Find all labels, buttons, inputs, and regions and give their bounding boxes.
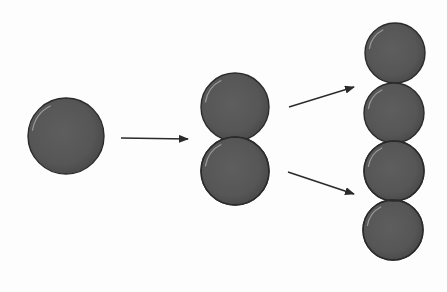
- stage-1: [28, 98, 104, 174]
- diagram-canvas: [0, 0, 447, 292]
- stage-2: [201, 73, 269, 205]
- arrow-icon: [121, 138, 188, 139]
- cell-body: [364, 83, 424, 143]
- cell: [201, 73, 269, 141]
- cell: [28, 98, 104, 174]
- cell-body: [201, 73, 269, 141]
- cell: [365, 23, 425, 83]
- cell-division-diagram: [0, 0, 447, 292]
- cell: [364, 83, 424, 143]
- stage-3: [363, 23, 425, 260]
- cell-body: [365, 23, 425, 83]
- arrow-icon: [289, 87, 354, 107]
- cells-group: [28, 23, 425, 260]
- cell-body: [28, 98, 104, 174]
- arrow-icon: [288, 172, 354, 194]
